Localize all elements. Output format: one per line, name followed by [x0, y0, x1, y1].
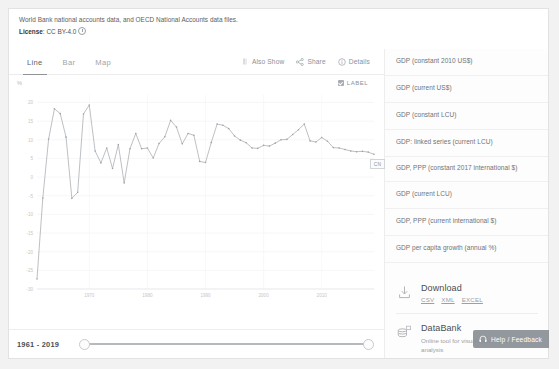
data-point[interactable]: [327, 140, 329, 142]
indicator-item[interactable]: GDP (constant 2010 US$): [385, 49, 548, 76]
download-excel-link[interactable]: EXCEL: [462, 296, 483, 303]
help-feedback-button[interactable]: Help / Feedback: [473, 330, 549, 348]
info-icon[interactable]: [78, 27, 86, 35]
data-point[interactable]: [216, 123, 218, 125]
data-point[interactable]: [94, 150, 96, 152]
data-point[interactable]: [147, 147, 149, 149]
slider-handle-start[interactable]: [79, 339, 90, 350]
data-point[interactable]: [106, 147, 108, 149]
data-point[interactable]: [118, 144, 120, 146]
data-point[interactable]: [176, 126, 178, 128]
y-axis-tick-label: -5: [29, 194, 34, 199]
also-show-label: Also Show: [252, 58, 285, 65]
data-point[interactable]: [71, 198, 73, 200]
data-point[interactable]: [135, 133, 137, 135]
data-point[interactable]: [123, 182, 125, 184]
y-axis-unit: %: [17, 80, 22, 86]
data-point[interactable]: [245, 142, 247, 144]
vertical-bars-icon: [243, 58, 249, 65]
data-point[interactable]: [228, 128, 230, 130]
data-point[interactable]: [211, 142, 213, 144]
data-point[interactable]: [199, 161, 201, 163]
data-point[interactable]: [350, 150, 352, 152]
data-point[interactable]: [309, 140, 311, 142]
details-button[interactable]: Details: [338, 58, 370, 66]
data-point[interactable]: [251, 147, 253, 149]
slider-track[interactable]: [87, 343, 366, 345]
chart-plot-area[interactable]: 20151050-5-10-15-20-25-30197019801990200…: [13, 91, 380, 303]
data-point[interactable]: [164, 136, 166, 138]
license-separator: :: [43, 28, 45, 35]
tab-line[interactable]: Line: [17, 49, 53, 74]
slider-handle-end[interactable]: [363, 339, 374, 350]
y-axis-tick-label: -20: [26, 250, 33, 255]
data-point[interactable]: [158, 143, 160, 145]
tab-bar[interactable]: Bar: [53, 49, 86, 74]
data-point[interactable]: [292, 134, 294, 136]
share-icon: [296, 58, 304, 66]
tab-map[interactable]: Map: [85, 49, 121, 74]
share-label: Share: [307, 58, 325, 65]
data-point[interactable]: [333, 147, 335, 149]
download-xml-link[interactable]: XML: [441, 296, 454, 303]
indicator-item[interactable]: GDP, PPP (constant 2017 international $): [385, 157, 548, 182]
data-point[interactable]: [88, 104, 90, 106]
data-point[interactable]: [65, 136, 67, 138]
data-point[interactable]: [240, 139, 242, 141]
data-point[interactable]: [129, 148, 131, 150]
data-point[interactable]: [181, 143, 183, 145]
series-end-label-cn[interactable]: CN: [370, 159, 385, 169]
data-point[interactable]: [193, 134, 195, 136]
also-show-button[interactable]: Also Show: [243, 58, 285, 65]
indicator-item[interactable]: GDP, PPP (current international $): [385, 209, 548, 236]
data-point[interactable]: [298, 129, 300, 131]
year-range-slider[interactable]: [77, 337, 376, 351]
data-point[interactable]: [205, 162, 207, 164]
download-panel[interactable]: Download CSV XML EXCEL: [385, 274, 548, 307]
indicator-item[interactable]: GDP per capita growth (annual %): [385, 236, 548, 263]
indicator-item[interactable]: GDP (current LCU): [385, 182, 548, 209]
data-point[interactable]: [48, 138, 50, 140]
data-point[interactable]: [315, 141, 317, 143]
indicator-item-label: GDP, PPP (constant 2017 international $): [396, 164, 517, 171]
x-axis-tick-label: 1970: [84, 293, 95, 298]
checkbox-checked-icon[interactable]: [338, 80, 344, 86]
data-point[interactable]: [338, 147, 340, 149]
data-point[interactable]: [54, 108, 56, 110]
indicator-item[interactable]: GDP (current US$): [385, 76, 548, 103]
data-point[interactable]: [286, 139, 288, 141]
data-point[interactable]: [356, 151, 358, 153]
data-point[interactable]: [83, 113, 85, 115]
data-point[interactable]: [257, 148, 259, 150]
data-point[interactable]: [367, 151, 369, 153]
data-point[interactable]: [152, 157, 154, 159]
data-point[interactable]: [280, 139, 282, 141]
license-value[interactable]: CC BY-4.0: [46, 28, 76, 35]
indicator-item[interactable]: GDP: linked series (current LCU): [385, 130, 548, 157]
data-point[interactable]: [274, 142, 276, 144]
data-point[interactable]: [303, 123, 305, 125]
data-point[interactable]: [112, 168, 114, 170]
data-point[interactable]: [373, 154, 375, 156]
indicator-item[interactable]: GDP (constant LCU): [385, 103, 548, 130]
download-csv-link[interactable]: CSV: [421, 296, 434, 303]
y-axis-tick-label: 0: [30, 175, 33, 180]
data-point[interactable]: [170, 120, 172, 122]
data-point[interactable]: [100, 162, 102, 164]
data-point[interactable]: [362, 151, 364, 153]
chart-column: Line Bar Map Also Show: [9, 49, 385, 358]
data-point[interactable]: [234, 135, 236, 137]
data-point[interactable]: [141, 148, 143, 150]
label-toggle[interactable]: LABEL: [338, 80, 376, 86]
data-point[interactable]: [42, 197, 44, 199]
data-point[interactable]: [344, 149, 346, 151]
share-button[interactable]: Share: [296, 58, 325, 66]
data-point[interactable]: [59, 113, 61, 115]
data-point[interactable]: [269, 145, 271, 147]
data-point[interactable]: [263, 145, 265, 147]
data-point[interactable]: [77, 192, 79, 194]
data-point[interactable]: [321, 137, 323, 139]
data-point[interactable]: [222, 124, 224, 126]
data-point[interactable]: [36, 278, 38, 280]
data-point[interactable]: [187, 133, 189, 135]
